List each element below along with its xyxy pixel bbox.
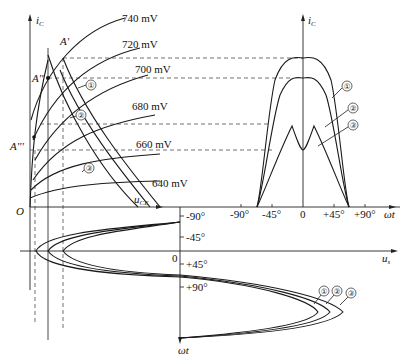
us-tick-m45: -45°: [186, 231, 205, 243]
ic-tick-p90: +90°: [354, 208, 376, 220]
us-tick-p90: +90°: [186, 281, 208, 293]
curve-label-660mv: 660 mV: [136, 138, 172, 150]
origin-label: O: [16, 205, 24, 217]
omega-t-vertical-label: ωt: [178, 344, 190, 355]
curve-label-680mv: 680 mV: [132, 100, 168, 112]
ic-axis-arrow-icon: [28, 14, 32, 21]
curve-label-700mv: 700 mV: [135, 63, 171, 75]
point-label-a2: A'': [31, 72, 44, 84]
ic-tick-p45: +45°: [323, 208, 345, 220]
point-label-a1: A': [59, 35, 70, 47]
curve-720mv: [33, 48, 140, 140]
us-label-1: ①: [321, 287, 328, 296]
us-label-2: ②: [334, 287, 341, 296]
us-tick-p45: +45°: [186, 258, 208, 270]
load-line-label-2: ②: [78, 111, 85, 120]
curve-label-740mv: 740 mV: [122, 12, 158, 24]
load-line-label-1: ①: [88, 81, 95, 90]
us-axis-label: us: [382, 252, 391, 266]
ic-wave-axis-label: iC: [308, 14, 316, 28]
ic-waveform: iC -90° -45° 0 +45° +90° ωt ① ② ③: [230, 14, 396, 220]
ic-tick-m45: -45°: [262, 208, 281, 220]
transistor-waveform-diagram: iC O uCE 740 mV 720 mV 700 mV 680 mV 660…: [0, 0, 404, 355]
us-waveform: us ωt 0 -90° -45° +45° +90° ① ② ③: [20, 207, 398, 355]
wave-label-2: ②: [350, 104, 357, 113]
ic-tick-0: 0: [300, 208, 306, 220]
load-line-label-3: ③: [86, 164, 93, 173]
wave-label-1: ①: [344, 82, 351, 91]
us-axis-arrow-icon: [391, 249, 398, 253]
point-label-a3: A''': [9, 140, 24, 152]
us-zero-label: 0: [172, 252, 178, 264]
ic-tick-m90: -90°: [230, 208, 249, 220]
point-a2: [46, 76, 50, 80]
curve-label-640mv: 640 mV: [152, 177, 188, 189]
ic-axis-label: iC: [36, 14, 44, 28]
wave-label-3: ③: [350, 121, 357, 130]
us-tick-m90: -90°: [186, 210, 205, 222]
ic-wave-axis-arrow-icon: [301, 14, 305, 21]
load-line-1: [63, 58, 160, 207]
us-curve-1: [36, 222, 318, 338]
curve-label-720mv: 720 mV: [122, 38, 158, 50]
us-label-3: ③: [348, 289, 355, 298]
point-a3: [32, 135, 36, 139]
omega-t-axis-label: ωt: [384, 208, 396, 220]
curve-740mv: [31, 18, 125, 120]
